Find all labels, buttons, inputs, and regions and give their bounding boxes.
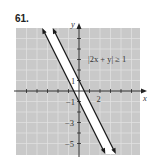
y-tick-label-1: 1	[71, 76, 75, 86]
inequality-label: |2x + y| ≥ 1	[88, 54, 126, 64]
y-tick-label-neg1: −1	[66, 97, 75, 107]
y-tick-label-neg5: −5	[65, 139, 74, 149]
x-tick-label-2: 2	[97, 94, 101, 104]
x-axis-label: x	[142, 93, 147, 103]
graph-figure: 61.	[0, 0, 156, 166]
y-tick-label-neg3: −3	[65, 118, 74, 128]
y-axis-label: y	[70, 19, 75, 29]
problem-number: 61.	[15, 13, 29, 24]
y-axis-arrow-icon	[77, 23, 82, 29]
